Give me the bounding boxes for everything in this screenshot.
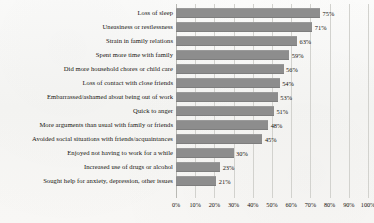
chart-row: Increased use of drugs or alcohol23% — [0, 160, 374, 174]
bar-value-label: 48% — [271, 121, 283, 130]
bar — [176, 106, 274, 116]
bar — [176, 134, 262, 144]
x-tick-100%: 100% — [361, 200, 374, 209]
chart-row: More arguments than usual with family or… — [0, 118, 374, 132]
bar-track: 23% — [176, 160, 374, 174]
bar-value-label: 54% — [282, 79, 294, 88]
bar-value-label: 71% — [315, 23, 327, 32]
x-tick-80%: 80% — [324, 200, 335, 209]
category-label: Loss of contact with close friends — [0, 79, 176, 87]
x-tick-0%: 0% — [172, 200, 180, 209]
category-label: Quick to anger — [0, 107, 176, 115]
category-label: Sought help for anxiety, depression, oth… — [0, 177, 176, 185]
bar-track: 53% — [176, 90, 374, 104]
bar-track: 21% — [176, 174, 374, 188]
chart-row: Sought help for anxiety, depression, oth… — [0, 174, 374, 188]
bar — [176, 50, 289, 60]
bar — [176, 120, 268, 130]
category-label: Embarrassed/ashamed about being out of w… — [0, 93, 176, 101]
bar-track: 75% — [176, 6, 374, 20]
x-tick-30%: 30% — [228, 200, 239, 209]
x-tick-60%: 60% — [286, 200, 297, 209]
bar-track: 54% — [176, 76, 374, 90]
x-tick-50%: 50% — [266, 200, 277, 209]
chart-plot-rows: Loss of sleep75%Uneasiness or restlessne… — [0, 6, 374, 188]
bar-track: 59% — [176, 48, 374, 62]
bar-chart: Loss of sleep75%Uneasiness or restlessne… — [0, 0, 374, 223]
bar — [176, 64, 284, 74]
chart-row: Uneasiness or restlessness71% — [0, 20, 374, 34]
chart-row: Loss of contact with close friends54% — [0, 76, 374, 90]
chart-row: Spent more time with family59% — [0, 48, 374, 62]
chart-row: Enjoyed not having to work for a while30… — [0, 146, 374, 160]
bar-value-label: 53% — [280, 93, 292, 102]
bar-value-label: 75% — [323, 9, 335, 18]
category-label: Uneasiness or restlessness — [0, 23, 176, 31]
bar-track: 71% — [176, 20, 374, 34]
bar — [176, 162, 220, 172]
bar-value-label: 21% — [219, 177, 231, 186]
category-label: Loss of sleep — [0, 9, 176, 17]
bar-track: 30% — [176, 146, 374, 160]
category-label: Increased use of drugs or alcohol — [0, 163, 176, 171]
category-label: Did more household chores or child care — [0, 65, 176, 73]
bar-value-label: 45% — [265, 135, 277, 144]
bar-track: 45% — [176, 132, 374, 146]
chart-row: Strain in family relations63% — [0, 34, 374, 48]
bar — [176, 148, 234, 158]
bar-value-label: 30% — [236, 149, 248, 158]
bar — [176, 176, 216, 186]
x-tick-70%: 70% — [305, 200, 316, 209]
x-tick-40%: 40% — [247, 200, 258, 209]
bar — [176, 92, 278, 102]
x-tick-90%: 90% — [343, 200, 354, 209]
chart-row: Did more household chores or child care5… — [0, 62, 374, 76]
bar-value-label: 56% — [286, 65, 298, 74]
chart-row: Quick to anger51% — [0, 104, 374, 118]
bar-value-label: 63% — [299, 37, 311, 46]
bar-track: 51% — [176, 104, 374, 118]
bar — [176, 8, 320, 18]
x-tick-10%: 10% — [190, 200, 201, 209]
bar-track: 48% — [176, 118, 374, 132]
bar-value-label: 51% — [276, 107, 288, 116]
bar-track: 56% — [176, 62, 374, 76]
bar-value-label: 59% — [292, 51, 304, 60]
bar — [176, 36, 297, 46]
category-label: Avoided social situations with friends/a… — [0, 135, 176, 143]
x-tick-20%: 20% — [209, 200, 220, 209]
bar-value-label: 23% — [223, 163, 235, 172]
category-label: Spent more time with family — [0, 51, 176, 59]
chart-row: Loss of sleep75% — [0, 6, 374, 20]
bar-track: 63% — [176, 34, 374, 48]
category-label: Strain in family relations — [0, 37, 176, 45]
bar — [176, 78, 280, 88]
bar — [176, 22, 312, 32]
chart-row: Avoided social situations with friends/a… — [0, 132, 374, 146]
category-label: More arguments than usual with family or… — [0, 121, 176, 129]
chart-row: Embarrassed/ashamed about being out of w… — [0, 90, 374, 104]
category-label: Enjoyed not having to work for a while — [0, 149, 176, 157]
x-axis-tick-labels: 0%10%20%30%40%50%60%70%80%90%100% — [176, 200, 374, 214]
